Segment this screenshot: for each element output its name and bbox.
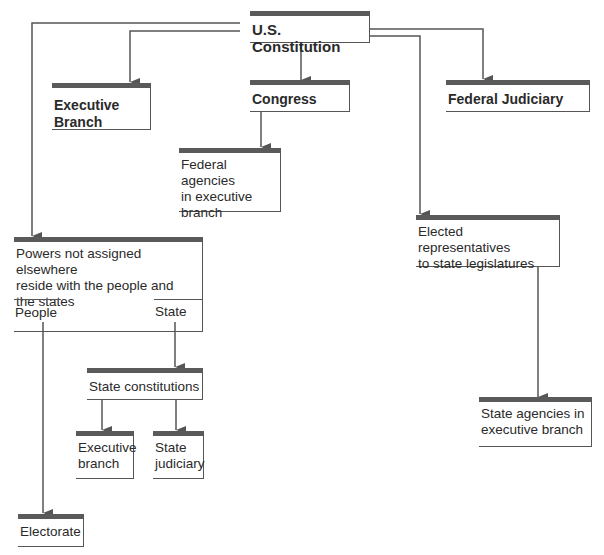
node-label: Executive branch — [78, 440, 137, 472]
node-congress: Congress — [250, 80, 350, 112]
node-label: State judiciary — [155, 440, 205, 472]
node-label: Elected representatives to state legisla… — [418, 224, 559, 272]
node-label: U.S. Constitution — [252, 21, 369, 55]
node-label: Congress — [252, 91, 317, 108]
state-divider — [154, 299, 202, 300]
node-elected-representatives: Elected representatives to state legisla… — [416, 215, 560, 267]
node-state-judiciary: State judiciary — [153, 431, 204, 479]
node-electorate: Electorate — [18, 514, 84, 547]
node-federal-agencies: Federal agencies in executive branch — [179, 148, 281, 212]
diagram-canvas: U.S. Constitution Executive Branch Congr… — [0, 0, 604, 555]
node-state-agencies: State agencies in executive branch — [479, 397, 592, 447]
edge-constitution-executive — [130, 31, 240, 82]
node-label: State constitutions — [89, 379, 199, 395]
node-federal-judiciary: Federal Judiciary — [446, 80, 590, 112]
people-divider — [14, 299, 61, 300]
node-label: Federal agencies in executive branch — [181, 157, 280, 221]
node-label: Electorate — [20, 524, 81, 540]
node-state-constitutions: State constitutions — [87, 368, 203, 400]
people-section-label: People — [15, 305, 57, 321]
node-label: Federal Judiciary — [448, 91, 563, 108]
node-us-constitution: U.S. Constitution — [250, 11, 370, 43]
state-section-label: State — [155, 304, 187, 320]
node-label: Executive Branch — [54, 97, 119, 131]
node-state-executive-branch: Executive branch — [76, 431, 134, 479]
edge-constitution-elected — [370, 36, 420, 214]
node-label: Powers not assigned elsewhere reside wit… — [16, 246, 202, 310]
node-label: State agencies in executive branch — [481, 406, 585, 438]
node-executive-branch: Executive Branch — [52, 83, 151, 130]
